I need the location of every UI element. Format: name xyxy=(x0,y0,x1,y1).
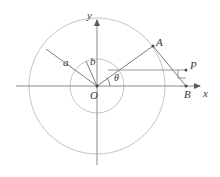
point-O-dot xyxy=(96,85,99,88)
x-axis-label: x xyxy=(203,88,208,99)
segment-AB xyxy=(153,46,186,86)
right-angle-marker xyxy=(178,70,186,78)
segment-OA xyxy=(97,46,153,86)
angle-theta-label: θ xyxy=(114,73,119,83)
radius-a-label: a xyxy=(63,57,69,68)
y-axis-label: y xyxy=(87,10,92,21)
point-P-dot xyxy=(185,69,188,72)
origin-label: O xyxy=(90,90,98,101)
radius-b-label: b xyxy=(90,56,96,67)
point-B-label: B xyxy=(184,89,191,100)
geometry-figure: y x O A P B a b θ xyxy=(0,0,220,177)
point-P-label: P xyxy=(190,60,197,71)
point-A-label: A xyxy=(156,37,163,48)
point-A-dot xyxy=(152,45,155,48)
